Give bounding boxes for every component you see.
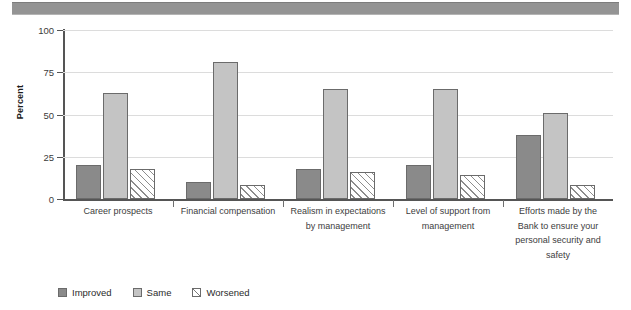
- bar-improved-2: [186, 182, 211, 199]
- y-tick-label: 0: [49, 194, 54, 205]
- bar-improved-3: [296, 169, 321, 199]
- bar-same-1: [103, 93, 128, 199]
- legend-swatch-same-icon: [133, 288, 142, 297]
- x-category-label: Level of support frommanagement: [393, 204, 503, 233]
- bar-improved-4: [406, 165, 431, 199]
- x-category-label-line: Realism in expectations: [283, 204, 393, 219]
- bar-worsened-1: [130, 169, 155, 199]
- y-tick-label: 50: [43, 109, 54, 120]
- bar-worsened-5: [570, 185, 595, 199]
- chart-legend: ImprovedSameWorsened: [58, 287, 250, 298]
- legend-swatch-improved-icon: [58, 288, 67, 297]
- bar-worsened-3: [350, 172, 375, 199]
- bar-improved-1: [76, 165, 101, 199]
- x-category-label-line: Level of support from: [393, 204, 503, 219]
- x-category-label-line: by management: [283, 219, 393, 234]
- x-category-label-line: safety: [503, 248, 613, 263]
- x-category-label: Career prospects: [63, 204, 173, 219]
- plot-area: 0255075100: [63, 30, 613, 199]
- x-category-label-line: personal security and: [503, 233, 613, 248]
- legend-label: Worsened: [206, 287, 249, 298]
- y-axis-title: Percent: [15, 67, 25, 137]
- y-tick-label: 25: [43, 151, 54, 162]
- x-category-label: Realism in expectationsby management: [283, 204, 393, 233]
- bar-same-2: [213, 62, 238, 199]
- legend-item-same[interactable]: Same: [133, 287, 172, 298]
- x-category-label-line: Financial compensation: [173, 204, 283, 219]
- bars-layer: [63, 30, 613, 199]
- top-banner-bar: [12, 2, 619, 15]
- y-tick-label: 75: [43, 67, 54, 78]
- bar-same-4: [433, 89, 458, 199]
- x-category-label: Financial compensation: [173, 204, 283, 219]
- x-axis-line: [63, 199, 613, 201]
- legend-item-worsened[interactable]: Worsened: [192, 287, 249, 298]
- bar-worsened-2: [240, 185, 265, 199]
- legend-swatch-worsened-icon: [192, 288, 201, 297]
- y-tick-mark: [57, 199, 63, 200]
- legend-item-improved[interactable]: Improved: [58, 287, 112, 298]
- x-category-label-line: Bank to ensure your: [503, 219, 613, 234]
- legend-label: Same: [147, 287, 172, 298]
- x-category-label-line: Efforts made by the: [503, 204, 613, 219]
- x-category-label: Efforts made by theBank to ensure yourpe…: [503, 204, 613, 262]
- bar-improved-5: [516, 135, 541, 199]
- x-category-label-line: Career prospects: [63, 204, 173, 219]
- bar-chart: Percent 0255075100 Career prospectsFinan…: [0, 0, 631, 310]
- bar-worsened-4: [460, 175, 485, 199]
- bar-same-3: [323, 89, 348, 199]
- bar-same-5: [543, 113, 568, 199]
- legend-label: Improved: [72, 287, 112, 298]
- y-tick-label: 100: [38, 25, 54, 36]
- x-category-label-line: management: [393, 219, 503, 234]
